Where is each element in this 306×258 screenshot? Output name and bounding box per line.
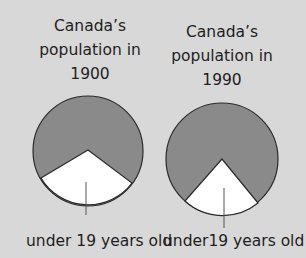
pie-chart-figure: Canada’s population in 1900 Canada’s pop… — [0, 0, 306, 258]
wedge-label-1990: under19 years old — [163, 232, 304, 250]
pie-charts-graphic — [0, 0, 306, 258]
pie-1900 — [33, 96, 143, 215]
pie-1990 — [166, 103, 278, 228]
wedge-label-1900: under 19 years old — [26, 232, 172, 250]
